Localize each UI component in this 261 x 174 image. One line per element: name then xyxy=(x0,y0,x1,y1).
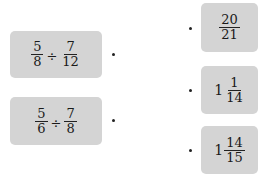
expression-card-1[interactable]: 5 8 ÷ 7 12 xyxy=(10,31,102,78)
connector-dot-left-1[interactable] xyxy=(112,53,115,56)
fraction: 7 8 xyxy=(64,107,76,136)
connector-dot-right-1[interactable] xyxy=(189,27,192,30)
fraction: 7 12 xyxy=(60,40,81,69)
expression-card-2[interactable]: 5 6 ÷ 7 8 xyxy=(10,97,102,145)
whole-number: 1 xyxy=(214,142,223,158)
connector-dot-left-2[interactable] xyxy=(112,119,115,122)
fraction: 14 15 xyxy=(224,136,245,165)
connector-dot-right-3[interactable] xyxy=(189,149,192,152)
fraction: 20 21 xyxy=(219,13,240,42)
fraction: 5 8 xyxy=(31,40,43,69)
answer-card-2[interactable]: 1 1 14 xyxy=(201,66,258,114)
connector-dot-right-2[interactable] xyxy=(189,89,192,92)
fraction: 5 6 xyxy=(35,107,47,136)
answer-card-3[interactable]: 1 14 15 xyxy=(201,126,258,174)
answer-card-1[interactable]: 20 21 xyxy=(201,3,258,52)
whole-number: 1 xyxy=(214,82,223,98)
fraction: 1 14 xyxy=(224,76,245,105)
divide-operator: ÷ xyxy=(46,49,57,64)
divide-operator: ÷ xyxy=(51,116,62,131)
